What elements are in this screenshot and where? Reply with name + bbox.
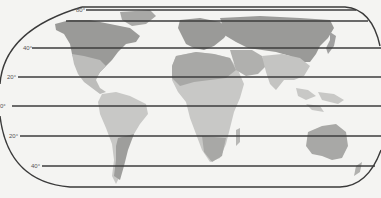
latitude-label-20s: 20°: [9, 133, 18, 139]
greenland: [120, 10, 156, 26]
world-map: 80° 40° 20° 0° 20° 40°: [0, 0, 381, 198]
southeast-asia: [296, 88, 344, 112]
australia: [306, 124, 348, 160]
latitude-label-20n: 20°: [7, 74, 16, 80]
latitude-label-80n: 80°: [76, 7, 85, 13]
latitude-label-equator: 0°: [0, 103, 6, 109]
africa-south: [202, 136, 226, 162]
land-masses: [55, 10, 362, 184]
new-zealand: [354, 162, 362, 176]
madagascar: [236, 128, 240, 146]
latitude-label-40n: 40°: [23, 45, 32, 51]
map-graphic: [0, 0, 381, 198]
latitude-label-40s: 40°: [31, 163, 40, 169]
